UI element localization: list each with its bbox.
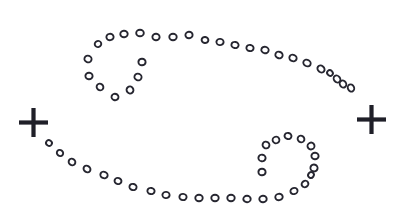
stipple-dot bbox=[152, 33, 160, 40]
stipple-dot bbox=[227, 195, 234, 201]
stipple-dot bbox=[258, 169, 265, 176]
stipple-dot bbox=[179, 194, 187, 201]
right-plus-vertical-bar bbox=[369, 105, 373, 134]
stipple-dot bbox=[275, 193, 283, 200]
stipple-dot bbox=[129, 183, 138, 191]
stipple-dot bbox=[106, 33, 114, 41]
cancer-glyph-svg bbox=[0, 0, 395, 217]
stipple-dot bbox=[259, 196, 267, 203]
stipple-dot bbox=[211, 195, 218, 201]
stipple-dot bbox=[94, 40, 102, 48]
left-plus-vertical-bar bbox=[31, 108, 35, 137]
stipple-dot bbox=[162, 191, 170, 198]
stipple-dot bbox=[258, 154, 266, 162]
stipple-dot bbox=[185, 32, 193, 39]
stipple-dot bbox=[216, 38, 224, 45]
stipple-dot bbox=[307, 142, 316, 151]
stipple-dot bbox=[85, 72, 93, 79]
stipple-dot bbox=[195, 195, 202, 201]
stipple-dot bbox=[147, 187, 155, 195]
stipple-dot bbox=[243, 196, 251, 203]
background-rect bbox=[0, 0, 395, 217]
stipple-dot bbox=[261, 46, 270, 54]
stipple-dot bbox=[138, 59, 145, 66]
stipple-dot bbox=[120, 30, 128, 37]
canvas-stage bbox=[0, 0, 395, 217]
stipple-dot bbox=[310, 164, 319, 173]
stipple-dot bbox=[169, 34, 176, 40]
stipple-dot bbox=[136, 30, 144, 37]
stipple-dot bbox=[246, 44, 254, 52]
stipple-dot bbox=[284, 132, 292, 139]
stipple-dot bbox=[311, 152, 319, 159]
stipple-dot bbox=[201, 37, 208, 44]
stipple-dot bbox=[231, 41, 239, 48]
